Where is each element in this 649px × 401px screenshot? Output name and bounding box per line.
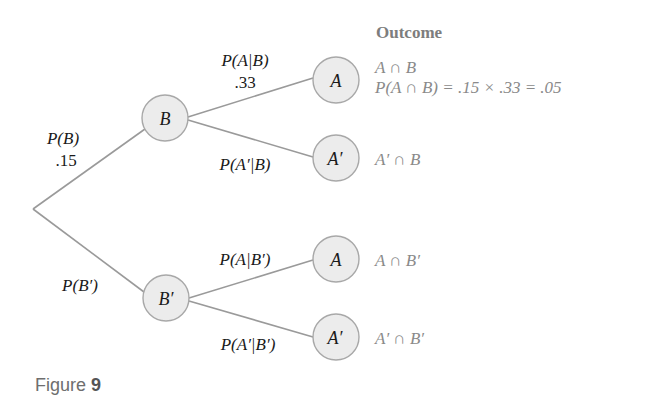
branch-b-to-a-prime [188, 120, 313, 157]
node-a-prime-given-b-label: A′ [328, 150, 343, 168]
branch-label-p-a-given-b: P(A|B) [221, 52, 268, 69]
node-a-given-b-label: A [331, 72, 342, 90]
node-a-given-b-prime-label: A [331, 251, 342, 269]
outcome-heading: Outcome [376, 24, 442, 41]
branch-label-p-a-prime-given-b-prime: P(A′|B′) [221, 336, 276, 353]
outcome-a-and-b-prime: A ∩ B′ [375, 252, 420, 269]
branch-label-p-a-prime-given-b: P(A′|B) [220, 156, 271, 173]
probability-tree-diagram: B B′ A A′ A A′ P(B) .15 P(B′) P(A|B) .33… [0, 0, 649, 401]
branch-label-p-b-prime: P(B′) [62, 277, 98, 294]
branch-label-p-b: P(B) [47, 130, 79, 147]
figure-caption-prefix: Figure [35, 375, 86, 395]
figure-caption-number: 9 [91, 375, 101, 395]
branch-label-p-a-given-b-prime: P(A|B′) [220, 251, 271, 268]
figure-caption: Figure 9 [35, 376, 101, 394]
outcome-a-prime-and-b: A′ ∩ B [375, 151, 420, 168]
outcome-a-and-b: A ∩ B [375, 59, 416, 76]
node-b-label: B [160, 110, 171, 128]
branch-value-p-a-given-b: .33 [234, 74, 255, 91]
branch-b-prime-to-a-prime [189, 301, 313, 337]
branch-value-p-b: .15 [55, 152, 76, 169]
outcome-a-prime-and-b-prime: A′ ∩ B′ [375, 330, 424, 347]
node-b-prime-label: B′ [159, 290, 174, 308]
node-a-prime-given-b-prime-label: A′ [328, 329, 343, 347]
outcome-a-and-b-calculation: P(A ∩ B) = .15 × .33 = .05 [375, 79, 562, 96]
tree-branches [0, 0, 649, 401]
